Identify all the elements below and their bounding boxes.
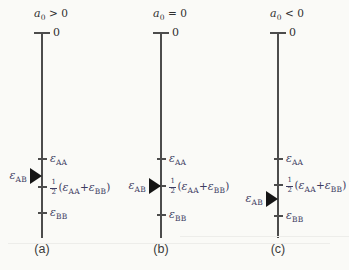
zero-tick-mark — [34, 32, 50, 34]
figure-energy-level-diagram: a0 > 00εAA12(εAA+εBB)εBBεAB(a)a0 = 00εAA… — [0, 0, 349, 270]
epsilon-AB-label: εAB — [216, 190, 263, 208]
symbol-text: > 0 — [46, 7, 68, 19]
epsilon-AB-arrow — [266, 191, 278, 207]
subscript-text: AA — [304, 185, 315, 194]
epsilon-AA-tick — [274, 158, 283, 159]
symbol-text: ) — [342, 179, 346, 191]
epsilon-BB-label: εBB — [169, 206, 187, 224]
epsilon-BB-label: εBB — [50, 204, 68, 222]
energy-axis-line — [41, 33, 43, 238]
scan-artifact-line — [8, 243, 330, 244]
zero-label: 0 — [172, 26, 179, 40]
epsilon-BB-tick — [274, 215, 283, 216]
energy-axis-line — [160, 33, 162, 238]
energy-axis-line — [277, 33, 279, 238]
epsilon-AB-arrow — [30, 168, 42, 184]
epsilon-AA-label: εAA — [50, 150, 67, 168]
one-half-fraction: 12 — [286, 177, 293, 194]
subscript-text: AA — [292, 158, 303, 167]
epsilon-AA-tick — [157, 158, 166, 159]
subscript-text: BB — [56, 212, 68, 221]
epsilon-AA-tick — [38, 158, 47, 159]
epsilon-AB-arrow — [149, 178, 161, 194]
subscript-text: BB — [331, 185, 343, 194]
subscript-text: AB — [15, 175, 27, 184]
subscript-text: AA — [175, 158, 186, 167]
subscript-text: BB — [175, 214, 187, 223]
zero-label: 0 — [289, 26, 296, 40]
symbol-text: + — [199, 180, 208, 192]
fraction-denominator: 2 — [171, 188, 175, 196]
half-sum-tick — [274, 184, 283, 185]
panel-caption-a: (a) — [20, 242, 64, 257]
fraction-denominator: 2 — [288, 187, 292, 195]
epsilon-BB-label: εBB — [286, 207, 304, 225]
panel-caption-b: (b) — [139, 242, 183, 257]
epsilon-BB-tick — [38, 212, 47, 213]
condition-title-a: a0 > 0 — [6, 6, 96, 25]
epsilon-AA-label: εAA — [286, 150, 303, 168]
condition-title-c: a0 < 0 — [242, 6, 332, 25]
epsilon-AA-label: εAA — [169, 150, 186, 168]
half-sum-label: 12(εAA+εBB) — [286, 176, 346, 194]
subscript-text: BB — [292, 215, 304, 224]
one-half-fraction: 12 — [50, 179, 57, 196]
subscript-text: AA — [187, 186, 198, 195]
half-sum-tick — [38, 186, 47, 187]
fraction-denominator: 2 — [52, 189, 56, 197]
condition-title-b: a0 = 0 — [125, 6, 215, 25]
epsilon-BB-tick — [157, 214, 166, 215]
epsilon-AB-label: εAB — [99, 177, 146, 195]
epsilon-AB-label: εAB — [0, 167, 27, 185]
subscript-text: AB — [134, 185, 146, 194]
subscript-text: AA — [68, 187, 79, 196]
symbol-text: < 0 — [282, 7, 304, 19]
symbol-text: + — [80, 181, 89, 193]
zero-label: 0 — [53, 26, 60, 40]
scan-artifact-line — [180, 236, 349, 237]
zero-tick-mark — [270, 32, 286, 34]
one-half-fraction: 12 — [169, 178, 176, 195]
symbol-text: = 0 — [165, 7, 187, 19]
zero-tick-mark — [153, 32, 169, 34]
panel-caption-c: (c) — [256, 242, 300, 257]
symbol-text: + — [316, 179, 325, 191]
subscript-text: AB — [251, 198, 263, 207]
subscript-text: AA — [56, 158, 67, 167]
